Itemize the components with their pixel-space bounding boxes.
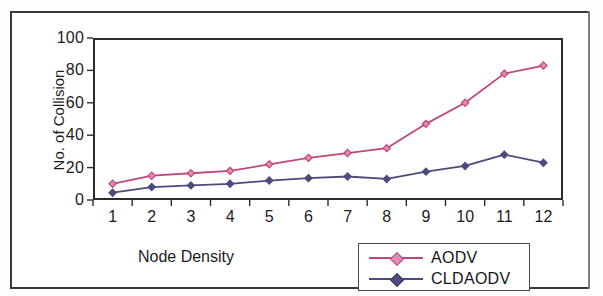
x-axis-tick-5: 5	[250, 208, 289, 230]
x-axis-tick-8: 8	[367, 208, 406, 230]
legend-line-marker-icon-cldaodv	[369, 272, 423, 286]
legend-line-marker-icon-aodv	[369, 251, 423, 265]
legend-label-aodv: AODV	[423, 249, 478, 267]
plot-area-frame	[93, 38, 563, 200]
x-axis-tick-9: 9	[406, 208, 445, 230]
x-axis-tick-3: 3	[171, 208, 210, 230]
x-axis-tick-4: 4	[211, 208, 250, 230]
x-axis-tick-6: 6	[289, 208, 328, 230]
x-axis-tick-7: 7	[328, 208, 367, 230]
x-axis-tick-labels: 123456789101112	[93, 208, 563, 230]
x-axis-title: Node Density	[96, 248, 276, 266]
legend-item-aodv: AODV	[359, 247, 529, 268]
y-axis-title-wrapper: No. of Collision	[22, 36, 58, 206]
x-axis-tick-12: 12	[524, 208, 563, 230]
x-axis-tick-11: 11	[485, 208, 524, 230]
chart-legend: AODV CLDAODV	[358, 243, 530, 291]
document-border-right-edge	[588, 11, 590, 289]
y-axis-title: No. of Collision	[51, 35, 67, 205]
x-axis-tick-10: 10	[446, 208, 485, 230]
chart-page: 100 80 60 40 20 0 No. of Collision 12345…	[0, 0, 603, 296]
legend-label-cldaodv: CLDAODV	[423, 270, 510, 288]
x-axis-tick-2: 2	[132, 208, 171, 230]
legend-item-cldaodv: CLDAODV	[359, 268, 529, 289]
x-axis-tick-1: 1	[93, 208, 132, 230]
